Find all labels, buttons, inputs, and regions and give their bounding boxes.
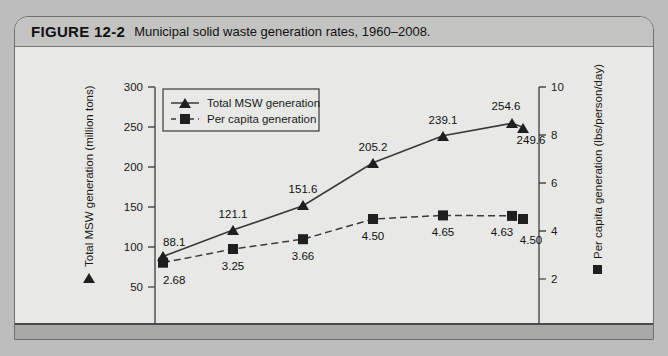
total-msw-label-1990: 205.2 bbox=[359, 141, 388, 153]
total-msw-marker-1990 bbox=[367, 158, 379, 168]
per-capita-marker-2000 bbox=[438, 210, 448, 220]
per-capita-label-2000: 4.65 bbox=[432, 226, 454, 238]
figure-number: FIGURE 12-2 bbox=[31, 23, 125, 40]
total-msw-marker-2007 bbox=[506, 118, 518, 128]
left-tick-100: 100 bbox=[124, 241, 143, 253]
legend-label-per-capita: Per capita generation bbox=[207, 113, 316, 125]
per-capita-label-2007: 4.63 bbox=[491, 226, 513, 238]
right-tick-8: 8 bbox=[551, 129, 557, 141]
chart-plot-panel: 300 250 200 150 100 50 0 10 8 6 4 2 bbox=[15, 48, 653, 324]
right-axis-title: Per capita generation (lbs/person/day) bbox=[592, 64, 604, 259]
figure-card: FIGURE 12-2 Municipal solid waste genera… bbox=[14, 16, 654, 340]
total-msw-label-1970: 121.1 bbox=[219, 208, 248, 220]
total-msw-label-2007: 254.6 bbox=[492, 100, 521, 112]
left-tick-150: 150 bbox=[124, 201, 143, 213]
legend-square-icon bbox=[180, 114, 190, 124]
total-msw-marker-2008 bbox=[517, 123, 529, 133]
left-axis-ticks: 300 250 200 150 100 50 0 bbox=[124, 81, 155, 324]
per-capita-label-2008: 4.50 bbox=[520, 234, 542, 246]
per-capita-marker-1980 bbox=[298, 234, 308, 244]
right-axis-square-icon bbox=[593, 265, 602, 274]
left-axis-title-group: Total MSW generation (million tons) bbox=[83, 85, 95, 283]
chart-legend: Total MSW generation Per capita generati… bbox=[163, 89, 320, 131]
total-msw-marker-2000 bbox=[437, 131, 449, 141]
left-axis-title: Total MSW generation (million tons) bbox=[83, 85, 95, 267]
right-axis-ticks: 10 8 6 4 2 0 bbox=[539, 81, 564, 324]
figure-bottom-band bbox=[15, 323, 653, 339]
per-capita-marker-1970 bbox=[228, 244, 238, 254]
per-capita-marker-1960 bbox=[158, 258, 168, 268]
per-capita-marker-2007 bbox=[507, 211, 517, 221]
left-tick-300: 300 bbox=[124, 81, 143, 93]
left-tick-50: 50 bbox=[130, 281, 143, 293]
right-tick-4: 4 bbox=[551, 225, 558, 237]
per-capita-label-1970: 3.25 bbox=[222, 260, 244, 272]
left-tick-250: 250 bbox=[124, 121, 143, 133]
per-capita-marker-1990 bbox=[368, 214, 378, 224]
figure-caption-bar: FIGURE 12-2 Municipal solid waste genera… bbox=[15, 17, 653, 47]
per-capita-label-1980: 3.66 bbox=[292, 250, 314, 262]
per-capita-label-1960: 2.68 bbox=[163, 274, 185, 286]
right-axis-title-group: Per capita generation (lbs/person/day) bbox=[592, 64, 604, 274]
per-capita-marker-2008 bbox=[518, 214, 528, 224]
figure-title: Municipal solid waste generation rates, … bbox=[134, 24, 430, 39]
total-msw-line bbox=[163, 123, 523, 256]
right-tick-6: 6 bbox=[551, 177, 557, 189]
total-msw-label-2008: 249.6 bbox=[517, 134, 546, 146]
msw-generation-line-chart: 300 250 200 150 100 50 0 10 8 6 4 2 bbox=[15, 48, 654, 324]
total-msw-label-1960: 88.1 bbox=[163, 236, 185, 248]
right-tick-10: 10 bbox=[551, 81, 564, 93]
total-msw-label-2000: 239.1 bbox=[429, 114, 458, 126]
right-tick-2: 2 bbox=[551, 273, 557, 285]
total-msw-marker-1980 bbox=[297, 200, 309, 210]
series-per-capita-generation: 2.68 3.25 3.66 4.50 4.65 4.63 4.50 bbox=[158, 210, 542, 286]
total-msw-label-1980: 151.6 bbox=[289, 183, 318, 195]
legend-label-total-msw: Total MSW generation bbox=[207, 97, 320, 109]
left-axis-triangle-icon bbox=[83, 273, 95, 283]
per-capita-label-1990: 4.50 bbox=[362, 230, 384, 242]
per-capita-line bbox=[163, 215, 523, 262]
left-tick-200: 200 bbox=[124, 161, 143, 173]
total-msw-marker-1970 bbox=[227, 225, 239, 235]
